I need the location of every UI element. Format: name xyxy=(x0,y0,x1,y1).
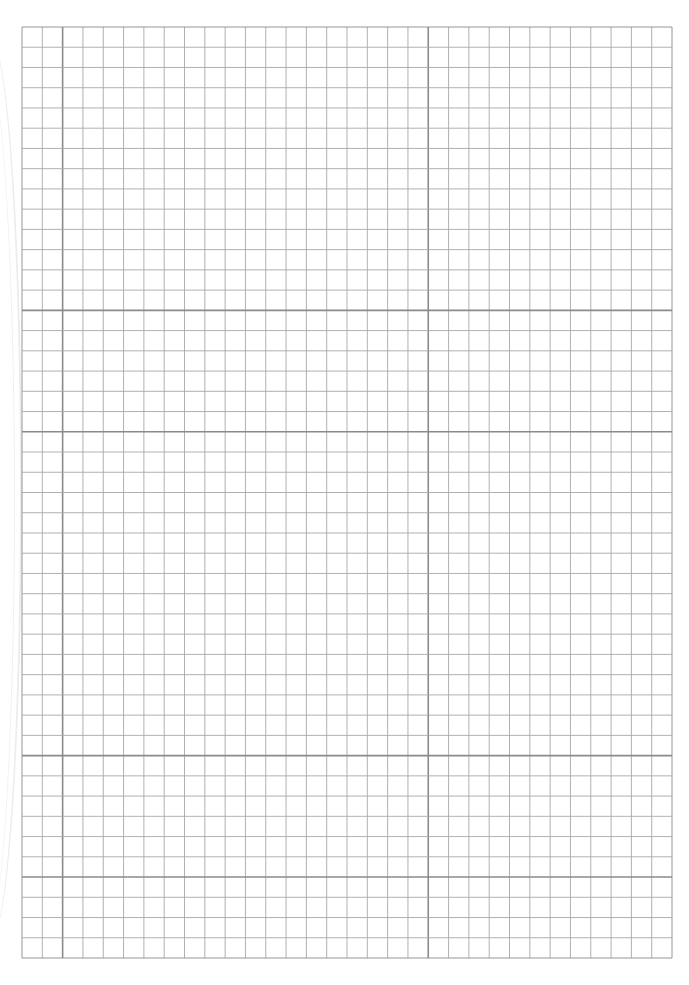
grid-lines xyxy=(0,0,689,985)
graph-paper-sheet xyxy=(0,0,689,985)
